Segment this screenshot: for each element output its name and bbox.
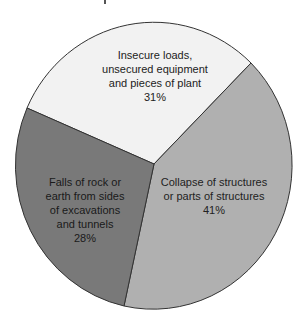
label-line: of excavations [50, 204, 121, 216]
value-label: 28% [74, 232, 96, 244]
label-line: and tunnels [57, 218, 114, 230]
label-line: Collapse of structures [161, 176, 268, 188]
value-label: 31% [144, 91, 166, 103]
label-line: and pieces of plant [109, 77, 201, 89]
label-line: earth from sides [46, 190, 125, 202]
label-line: unsecured equipment [102, 63, 208, 75]
value-label: 41% [203, 204, 225, 216]
label-line: Insecure loads, [118, 49, 193, 61]
label-line: or parts of structures [164, 190, 265, 202]
pie-chart: Insecure loads, unsecured equipment and … [0, 0, 305, 324]
label-line: Falls of rock or [49, 176, 121, 188]
